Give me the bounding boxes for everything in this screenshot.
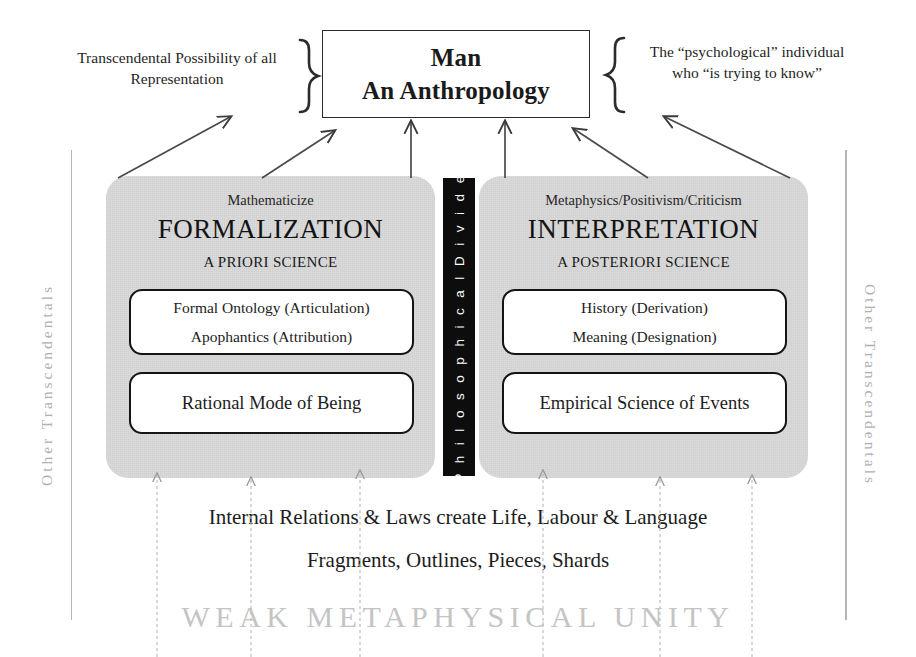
- box-line: Formal Ontology (Articulation): [173, 300, 369, 316]
- panel-left-science: A PRIORI SCIENCE: [106, 254, 435, 271]
- annotation-transcendental-possibility: Transcendental Possibility of all Repres…: [62, 48, 292, 90]
- brace-left-icon: [300, 40, 318, 112]
- box-line: Empirical Science of Events: [539, 394, 749, 413]
- rail-label-left: Other Transcendentals: [38, 284, 56, 486]
- annotation-psychological-individual: The “psychological” individual who “is t…: [640, 42, 854, 84]
- box-formal-ontology: Formal Ontology (Articulation) Apophanti…: [129, 289, 414, 355]
- panel-formalization: Mathematicize FORMALIZATION A PRIORI SCI…: [106, 176, 435, 478]
- panel-left-title: FORMALIZATION: [106, 214, 435, 245]
- title-box-man-anthropology: Man An Anthropology: [322, 30, 590, 118]
- arrow-left-inner: [262, 131, 334, 178]
- box-history-meaning: History (Derivation) Meaning (Designatio…: [502, 289, 787, 355]
- arrow-right-inner: [574, 129, 648, 178]
- box-line: Apophantics (Attribution): [191, 329, 352, 345]
- diagram-canvas: Mathematicize FORMALIZATION A PRIORI SCI…: [0, 0, 916, 657]
- panel-right-science: A POSTERIORI SCIENCE: [479, 254, 808, 271]
- rail-label-right: Other Transcendentals: [861, 284, 879, 486]
- title-line-anthropology: An Anthropology: [362, 77, 550, 105]
- box-line: Rational Mode of Being: [182, 394, 361, 413]
- panel-left-subtitle: Mathematicize: [106, 192, 435, 209]
- bottom-text-fragments: Fragments, Outlines, Pieces, Shards: [0, 548, 916, 573]
- bottom-text-internal-relations: Internal Relations & Laws create Life, L…: [0, 505, 916, 530]
- box-rational-mode: Rational Mode of Being: [129, 372, 414, 434]
- arrow-left-outer: [118, 117, 230, 178]
- panel-interpretation: Metaphysics/Positivism/Criticism INTERPR…: [479, 176, 808, 478]
- philosophical-divide-bar: P h i l o s o p h i c a l D i v i d e: [443, 178, 475, 476]
- box-line: Meaning (Designation): [572, 329, 716, 345]
- arrow-right-outer: [665, 117, 790, 178]
- box-line: History (Derivation): [581, 300, 708, 316]
- panel-right-subtitle: Metaphysics/Positivism/Criticism: [479, 192, 808, 209]
- philosophical-divide-label: P h i l o s o p h i c a l D i v i d e: [452, 172, 467, 482]
- panel-right-title: INTERPRETATION: [479, 214, 808, 245]
- box-empirical-science: Empirical Science of Events: [502, 372, 787, 434]
- title-line-man: Man: [431, 44, 482, 72]
- brace-right-icon: [606, 38, 624, 112]
- bottom-text-weak-metaphysical-unity: WEAK METAPHYSICAL UNITY: [0, 600, 916, 634]
